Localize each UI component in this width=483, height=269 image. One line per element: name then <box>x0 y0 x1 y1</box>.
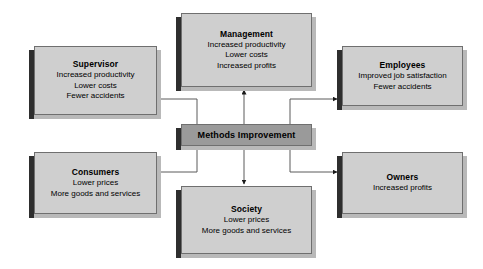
node-title: Consumers <box>72 167 120 178</box>
node-consumers[interactable]: Consumers Lower prices More goods and se… <box>29 152 157 214</box>
node-supervisor[interactable]: Supervisor Increased productivity Lower … <box>29 46 157 115</box>
node-title: Employees <box>380 60 426 71</box>
node-line: Improved job satisfaction <box>358 71 447 82</box>
box-shadow-right <box>463 156 467 218</box>
node-title: Management <box>220 29 273 40</box>
node-line: Increased profits <box>217 61 276 72</box>
node-face: Society Lower prices More goods and serv… <box>181 186 312 254</box>
node-management[interactable]: Management Increased productivity Lower … <box>176 13 312 87</box>
node-face: Consumers Lower prices More goods and se… <box>34 152 157 214</box>
box-shadow-right <box>157 156 161 218</box>
node-line: Increased profits <box>373 183 432 194</box>
node-line: Lower prices <box>73 178 118 189</box>
node-line: Lower costs <box>74 81 117 92</box>
node-employees[interactable]: Employees Improved job satisfaction Fewe… <box>337 46 463 106</box>
node-society[interactable]: Society Lower prices More goods and serv… <box>176 186 312 254</box>
node-line: Fewer accidents <box>66 91 124 102</box>
node-title: Methods Improvement <box>198 130 296 141</box>
node-face: Owners Increased profits <box>342 152 463 214</box>
node-line: More goods and services <box>51 189 140 200</box>
box-shadow-right <box>312 190 316 258</box>
box-shadow-bottom <box>342 106 467 110</box>
box-shadow-bottom <box>342 214 467 218</box>
box-shadow-bottom <box>181 146 316 150</box>
box-shadow-right <box>157 50 161 119</box>
box-shadow-bottom <box>34 214 161 218</box>
node-line: Increased productivity <box>57 70 135 81</box>
node-title: Supervisor <box>73 59 118 70</box>
node-face: Supervisor Increased productivity Lower … <box>34 46 157 115</box>
node-line: Lower costs <box>225 50 268 61</box>
node-line: Increased productivity <box>208 40 286 51</box>
connector-center-to-employees <box>290 99 337 124</box>
box-shadow-right <box>312 17 316 91</box>
node-title: Society <box>231 204 262 215</box>
box-shadow-bottom <box>34 115 161 119</box>
box-shadow-right <box>312 128 316 150</box>
node-owners[interactable]: Owners Increased profits <box>337 152 463 214</box>
node-face: Methods Improvement <box>181 124 312 146</box>
node-methods-improvement[interactable]: Methods Improvement <box>176 124 312 146</box>
node-title: Owners <box>387 172 419 183</box>
node-line: Lower prices <box>224 215 269 226</box>
box-shadow-right <box>463 50 467 110</box>
node-face: Management Increased productivity Lower … <box>181 13 312 87</box>
methods-improvement-diagram: Management Increased productivity Lower … <box>0 0 483 269</box>
box-shadow-bottom <box>181 254 316 258</box>
node-face: Employees Improved job satisfaction Fewe… <box>342 46 463 106</box>
node-line: Fewer accidents <box>373 82 431 93</box>
box-shadow-bottom <box>181 87 316 91</box>
node-line: More goods and services <box>202 226 291 237</box>
